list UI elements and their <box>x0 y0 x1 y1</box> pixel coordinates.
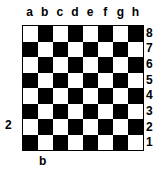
square-b8 <box>38 26 53 42</box>
square-c3 <box>53 104 68 120</box>
square-g6 <box>113 57 128 73</box>
file-labels: a b c d e f g h <box>22 4 143 20</box>
square-f5 <box>98 73 113 89</box>
square-d8 <box>68 26 83 42</box>
square-f2 <box>98 119 113 135</box>
file-label-a: a <box>22 4 37 20</box>
rank-label-6: 6 <box>146 56 162 72</box>
square-a2 <box>23 119 38 135</box>
file-label-f: f <box>98 4 113 20</box>
file-label-h: h <box>128 4 143 20</box>
file-label-g: g <box>113 4 128 20</box>
square-g1 <box>113 135 128 151</box>
square-b6 <box>38 57 53 73</box>
square-e4 <box>83 88 98 104</box>
square-d3 <box>68 104 83 120</box>
file-label-d: d <box>67 4 82 20</box>
square-d2 <box>68 119 83 135</box>
rank-label-3: 3 <box>146 103 162 119</box>
square-c7 <box>53 42 68 58</box>
square-b3 <box>38 104 53 120</box>
square-c1 <box>53 135 68 151</box>
square-f3 <box>98 104 113 120</box>
square-f1 <box>98 135 113 151</box>
square-c4 <box>53 88 68 104</box>
square-d5 <box>68 73 83 89</box>
file-label-e: e <box>83 4 98 20</box>
square-e1 <box>83 135 98 151</box>
square-f4 <box>98 88 113 104</box>
chessboard <box>22 25 144 151</box>
square-b1 <box>38 135 53 151</box>
square-c5 <box>53 73 68 89</box>
square-b7 <box>38 42 53 58</box>
square-d1 <box>68 135 83 151</box>
square-a3 <box>23 104 38 120</box>
square-e8 <box>83 26 98 42</box>
square-c6 <box>53 57 68 73</box>
square-b5 <box>38 73 53 89</box>
square-f8 <box>98 26 113 42</box>
side-annotation-label: 2 <box>5 118 12 132</box>
square-d6 <box>68 57 83 73</box>
square-b4 <box>38 88 53 104</box>
square-g7 <box>113 42 128 58</box>
square-a5 <box>23 73 38 89</box>
square-e2 <box>83 119 98 135</box>
square-g2 <box>113 119 128 135</box>
square-h3 <box>128 104 143 120</box>
square-h5 <box>128 73 143 89</box>
square-e6 <box>83 57 98 73</box>
rank-label-1: 1 <box>146 134 162 150</box>
square-h2 <box>128 119 143 135</box>
square-h7 <box>128 42 143 58</box>
square-b2 <box>38 119 53 135</box>
square-f6 <box>98 57 113 73</box>
rank-label-8: 8 <box>146 25 162 41</box>
rank-label-4: 4 <box>146 88 162 104</box>
rank-label-2: 2 <box>146 119 162 135</box>
square-g4 <box>113 88 128 104</box>
square-a8 <box>23 26 38 42</box>
square-e7 <box>83 42 98 58</box>
square-a7 <box>23 42 38 58</box>
rank-label-5: 5 <box>146 72 162 88</box>
square-a4 <box>23 88 38 104</box>
square-e5 <box>83 73 98 89</box>
square-e3 <box>83 104 98 120</box>
rank-label-7: 7 <box>146 41 162 57</box>
rank-labels: 8 7 6 5 4 3 2 1 <box>146 25 162 150</box>
square-a1 <box>23 135 38 151</box>
file-label-b: b <box>37 4 52 20</box>
square-g8 <box>113 26 128 42</box>
square-a6 <box>23 57 38 73</box>
square-h4 <box>128 88 143 104</box>
square-c2 <box>53 119 68 135</box>
square-d7 <box>68 42 83 58</box>
square-h8 <box>128 26 143 42</box>
square-g3 <box>113 104 128 120</box>
square-d4 <box>68 88 83 104</box>
square-c8 <box>53 26 68 42</box>
bottom-annotation-label: b <box>39 154 46 168</box>
square-f7 <box>98 42 113 58</box>
file-label-c: c <box>52 4 67 20</box>
square-h1 <box>128 135 143 151</box>
square-g5 <box>113 73 128 89</box>
square-h6 <box>128 57 143 73</box>
